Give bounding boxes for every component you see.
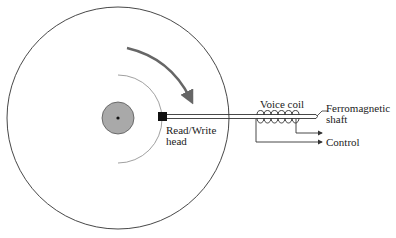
label-voice-coil: Voice coil <box>260 98 304 110</box>
label-head: head <box>166 135 187 147</box>
disk-diagram: Read/Write head Voice coil Ferromagnetic… <box>0 0 396 238</box>
coil-lead-right <box>296 119 322 133</box>
read-write-head <box>158 112 167 121</box>
spindle-center <box>116 116 119 119</box>
label-control: Control <box>326 136 360 148</box>
label-shaft: shaft <box>326 113 347 125</box>
rotation-arrow-icon <box>127 48 190 98</box>
voice-coil <box>257 111 299 124</box>
